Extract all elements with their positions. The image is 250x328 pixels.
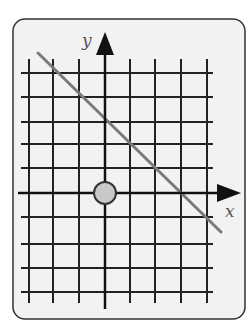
y-axis-label: y (81, 30, 92, 50)
point-marker (94, 182, 116, 204)
x-axis-label: x (225, 201, 235, 221)
coordinate-graph: x y (0, 0, 250, 328)
